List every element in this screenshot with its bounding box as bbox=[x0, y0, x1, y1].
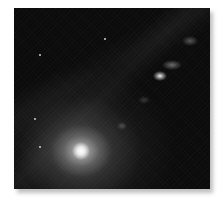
photo-grain bbox=[14, 8, 210, 189]
star bbox=[34, 118, 36, 120]
star bbox=[39, 146, 41, 148]
star bbox=[39, 54, 41, 56]
galaxy-photo bbox=[14, 8, 210, 189]
star bbox=[104, 38, 106, 40]
